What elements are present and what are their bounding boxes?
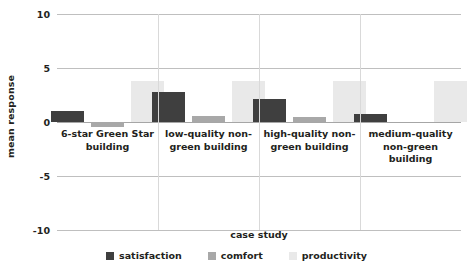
x-tick-label-line: low-quality non- <box>158 128 259 141</box>
bar-satisfaction <box>152 92 185 122</box>
x-tick-label-line: green building <box>158 141 259 154</box>
y-tick-label: 10 <box>37 9 50 20</box>
x-tick-label-line: green building <box>259 141 360 154</box>
x-tick-label: 6-star Green Starbuilding <box>57 128 158 153</box>
bar-group <box>259 14 360 230</box>
bar-productivity <box>434 81 467 122</box>
x-axis-title: case study <box>57 229 461 240</box>
legend-label: comfort <box>221 250 263 261</box>
bar-satisfaction <box>51 111 84 122</box>
x-tick-label-line: high-quality non- <box>259 128 360 141</box>
x-tick-label: medium-qualitynon-green building <box>360 128 461 166</box>
y-tick-label: -10 <box>33 225 50 236</box>
legend-swatch-icon <box>208 252 216 260</box>
bar-satisfaction <box>354 114 387 122</box>
bar-comfort <box>192 116 225 122</box>
bar-satisfaction <box>253 99 286 122</box>
x-tick-label: high-quality non-green building <box>259 128 360 153</box>
bar-group <box>57 14 158 230</box>
legend-swatch-icon <box>289 252 297 260</box>
legend-swatch-icon <box>106 252 114 260</box>
y-axis-title: mean response <box>0 0 22 232</box>
legend-label: satisfaction <box>119 250 182 261</box>
category-separator <box>259 14 260 230</box>
plot-area: 1050-5-10 <box>57 14 461 230</box>
legend-entry-productivity[interactable]: productivity <box>289 250 367 261</box>
y-tick-label: 0 <box>43 117 50 128</box>
bar-chart: mean response 1050-5-10 6-star Green Sta… <box>0 0 473 278</box>
category-separator <box>158 14 159 230</box>
category-separator <box>360 14 361 230</box>
x-axis-tick-labels: 6-star Green Starbuildinglow-quality non… <box>57 128 461 162</box>
legend: satisfactioncomfortproductivity <box>0 250 473 261</box>
y-tick-label: 5 <box>43 63 50 74</box>
legend-label: productivity <box>302 250 367 261</box>
y-tick-label: -5 <box>39 171 50 182</box>
x-tick-label: low-quality non-green building <box>158 128 259 153</box>
x-tick-label-line: non-green building <box>360 141 461 166</box>
bar-group <box>360 14 461 230</box>
x-tick-label-line: building <box>57 141 158 154</box>
legend-entry-satisfaction[interactable]: satisfaction <box>106 250 182 261</box>
x-tick-label-line: 6-star Green Star <box>57 128 158 141</box>
bars-layer <box>57 14 461 230</box>
bar-comfort <box>91 122 124 127</box>
legend-entry-comfort[interactable]: comfort <box>208 250 263 261</box>
bar-group <box>158 14 259 230</box>
x-tick-label-line: medium-quality <box>360 128 461 141</box>
y-axis-title-text: mean response <box>6 74 17 157</box>
bar-comfort <box>293 117 326 122</box>
